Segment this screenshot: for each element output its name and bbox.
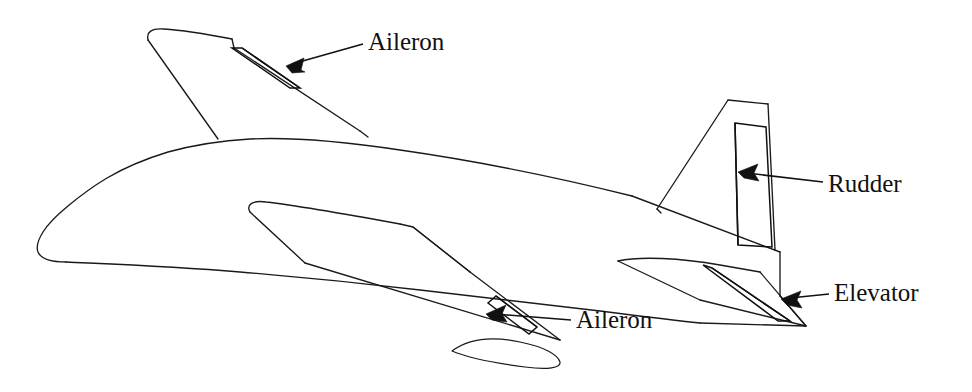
arrowhead-aileron-right	[486, 305, 507, 322]
hstab-tip	[618, 261, 700, 300]
right-wing-trailing-edge	[470, 272, 560, 340]
rudder-panel	[735, 123, 772, 247]
callout-aileron-right: Aileron	[486, 305, 653, 333]
left-wing-root-trailing	[360, 131, 368, 137]
aircraft-diagram: Aileron Rudder Elevator Aileron	[0, 0, 972, 392]
left-wing-group	[148, 29, 368, 139]
right-wing-upper-sweep	[400, 224, 470, 272]
right-wing-root-line	[413, 227, 470, 272]
callout-label-aileron-right: Aileron	[576, 306, 653, 333]
rudder-outline	[735, 123, 772, 247]
hstab-leading-edge	[618, 258, 760, 272]
fin-tip-chord	[728, 100, 768, 104]
rudder-hinge-line	[735, 123, 738, 245]
callout-aileron-left: Aileron	[286, 28, 445, 73]
left-wing-trailing-edge	[234, 48, 360, 131]
right-wing-tip	[249, 202, 400, 224]
arrowhead-elevator	[781, 291, 802, 308]
right-wing-group	[249, 202, 560, 340]
callout-label-elevator: Elevator	[834, 279, 919, 306]
left-wing-tip-chord	[232, 39, 234, 48]
elevator-panel	[703, 265, 790, 321]
fin-root-forward	[657, 209, 661, 213]
arrowhead-rudder	[738, 164, 759, 181]
callout-elevator: Elevator	[781, 279, 919, 308]
right-wing-leading-edge	[250, 212, 305, 263]
callout-label-rudder: Rudder	[828, 170, 902, 197]
fuselage-upper-profile	[37, 138, 632, 262]
left-wing-leading-edge	[148, 40, 218, 139]
wingtip-fairing-outline	[452, 339, 560, 368]
right-wingtip-fairing	[452, 339, 560, 368]
arrowhead-aileron-left	[286, 58, 305, 73]
fin-leading-edge	[657, 100, 728, 209]
aircraft-line-drawing: Aileron Rudder Elevator Aileron	[0, 0, 972, 392]
fuselage-aft-top-edge	[632, 196, 780, 252]
left-wing-tip	[148, 29, 232, 40]
callout-rudder: Rudder	[738, 164, 902, 197]
callout-label-aileron-left: Aileron	[368, 28, 445, 55]
